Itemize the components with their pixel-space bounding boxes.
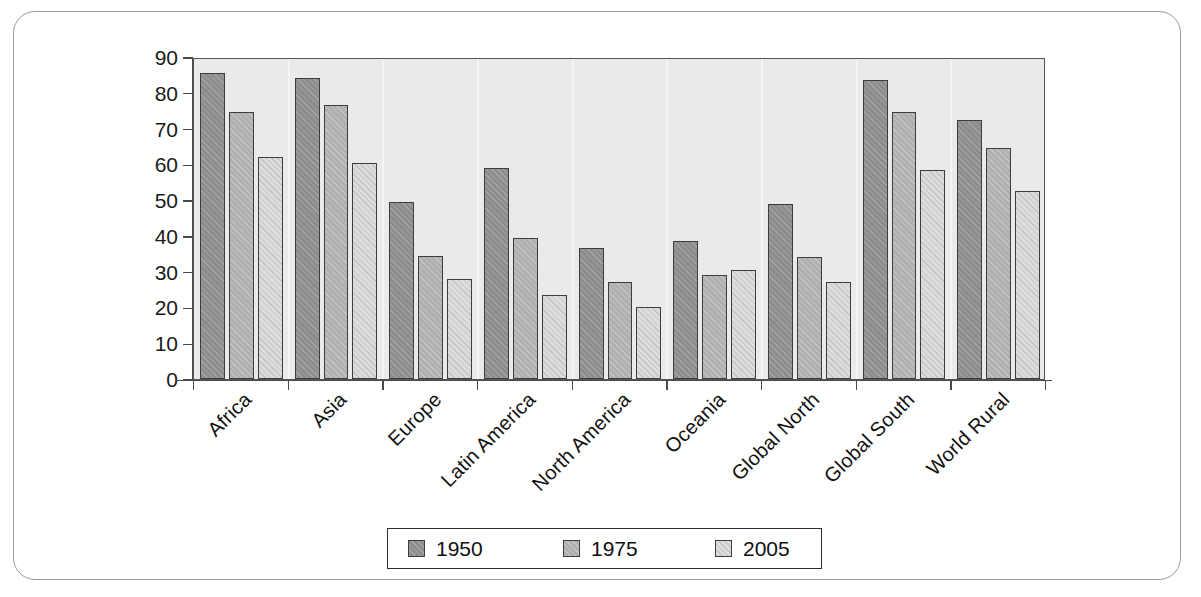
y-axis-tick-label: 0 — [136, 369, 178, 390]
y-axis-line — [192, 57, 193, 381]
legend: 1950 1975 2005 — [387, 528, 822, 569]
bar-africa-1975 — [229, 112, 254, 379]
y-axis-tick-label: 40 — [136, 226, 178, 247]
y-axis-tick — [183, 272, 192, 273]
bar-global-north-1975 — [797, 257, 822, 379]
bar-global-south-2005 — [920, 170, 945, 379]
category-separator — [288, 59, 290, 379]
legend-label-1950: 1950 — [436, 538, 483, 559]
x-axis-label-world-rural: World Rural — [922, 388, 1014, 480]
x-axis-tick — [382, 380, 383, 390]
bar-north-america-1975 — [608, 282, 633, 379]
legend-item-2005: 2005 — [715, 538, 790, 559]
bar-asia-1950 — [295, 78, 320, 379]
bar-africa-1950 — [200, 73, 225, 379]
y-axis-tick — [183, 93, 192, 94]
x-axis-label-latin-america: Latin America — [437, 388, 541, 492]
y-axis-tick-label: 30 — [136, 262, 178, 283]
bar-europe-1975 — [418, 256, 443, 379]
bar-global-south-1975 — [892, 112, 917, 379]
grouped-bar-chart: 0102030405060708090 AfricaAsiaEuropeLati… — [0, 0, 1201, 597]
x-axis-label-oceania: Oceania — [660, 388, 730, 458]
category-separator — [950, 59, 952, 379]
bar-oceania-2005 — [731, 270, 756, 379]
category-separator — [477, 59, 479, 379]
plot-area — [193, 58, 1045, 380]
x-axis-tick — [856, 380, 857, 390]
bar-asia-2005 — [352, 163, 377, 379]
y-axis-tick-label: 10 — [136, 333, 178, 354]
x-axis-label-global-north: Global North — [727, 388, 824, 485]
legend-item-1950: 1950 — [408, 538, 483, 559]
bar-world-rural-1975 — [986, 148, 1011, 379]
y-axis-tick-label: 70 — [136, 119, 178, 140]
y-axis-tick — [183, 165, 192, 166]
x-axis-tick — [288, 380, 289, 390]
y-axis-tick-label: 60 — [136, 154, 178, 175]
x-axis-label-europe: Europe — [383, 388, 446, 451]
x-axis-tick — [193, 380, 194, 390]
legend-swatch-icon-2005 — [715, 540, 732, 557]
x-axis-tick — [761, 380, 762, 390]
category-separator — [761, 59, 763, 379]
x-axis-label-north-america: North America — [528, 388, 636, 496]
bar-global-north-2005 — [826, 282, 851, 379]
x-axis-tick — [572, 380, 573, 390]
bar-north-america-2005 — [636, 307, 661, 379]
y-axis-tick — [183, 57, 192, 58]
legend-label-2005: 2005 — [743, 538, 790, 559]
category-separator — [856, 59, 858, 379]
y-axis-tick — [183, 344, 192, 345]
bar-global-north-1950 — [768, 204, 793, 379]
bar-global-south-1950 — [863, 80, 888, 379]
bar-north-america-1950 — [579, 248, 604, 379]
x-axis-tick — [950, 380, 951, 390]
bar-africa-2005 — [258, 157, 283, 379]
category-separator — [572, 59, 574, 379]
bar-world-rural-1950 — [957, 120, 982, 379]
y-axis-tick-label: 50 — [136, 190, 178, 211]
x-axis-tick — [666, 380, 667, 390]
x-axis-label-asia: Asia — [307, 388, 351, 432]
y-axis-tick-labels: 0102030405060708090 — [130, 0, 178, 597]
x-axis-label-global-south: Global South — [820, 388, 920, 488]
bar-latin-america-1975 — [513, 238, 538, 379]
y-axis-tick — [183, 129, 192, 130]
y-axis-tick — [183, 236, 192, 237]
bar-latin-america-1950 — [484, 168, 509, 379]
bar-asia-1975 — [324, 105, 349, 379]
bar-world-rural-2005 — [1015, 191, 1040, 379]
bar-oceania-1975 — [702, 275, 727, 379]
legend-item-1975: 1975 — [563, 538, 638, 559]
bar-oceania-1950 — [673, 241, 698, 379]
y-axis-tick — [183, 308, 192, 309]
x-axis-label-africa: Africa — [203, 388, 256, 441]
x-axis-line — [176, 380, 1052, 381]
bar-europe-1950 — [389, 202, 414, 379]
bar-latin-america-2005 — [542, 295, 567, 379]
category-separator — [382, 59, 384, 379]
x-axis-tick — [1045, 380, 1046, 390]
y-axis-tick-label: 20 — [136, 297, 178, 318]
x-axis-tick — [477, 380, 478, 390]
y-axis-tick — [183, 200, 192, 201]
y-axis-tick-label: 90 — [136, 47, 178, 68]
y-axis-tick-label: 80 — [136, 83, 178, 104]
legend-swatch-icon-1950 — [408, 540, 425, 557]
bar-europe-2005 — [447, 279, 472, 379]
category-separator — [666, 59, 668, 379]
legend-swatch-icon-1975 — [563, 540, 580, 557]
legend-label-1975: 1975 — [591, 538, 638, 559]
